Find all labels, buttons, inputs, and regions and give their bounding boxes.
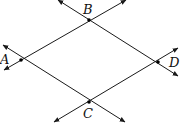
line-bd [58, 0, 178, 76]
point-d [156, 60, 160, 64]
point-b [87, 18, 91, 22]
point-c [87, 100, 91, 104]
point-a [19, 58, 23, 62]
geometry-diagram: ABCD [0, 0, 183, 126]
points-group [19, 18, 160, 104]
line-ac [3, 45, 125, 122]
label-d: D [168, 55, 180, 70]
line-cd [54, 48, 178, 122]
label-c: C [83, 106, 93, 121]
label-a: A [0, 52, 9, 67]
label-b: B [82, 2, 93, 17]
lines-group [3, 0, 178, 122]
